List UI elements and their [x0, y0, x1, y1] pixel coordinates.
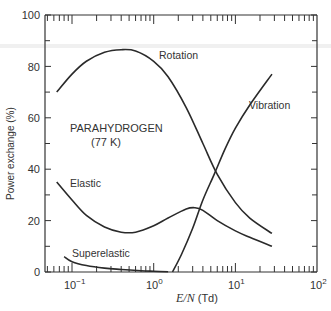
rotation-curve: [57, 49, 272, 233]
y-tick-label-40: 40: [28, 163, 40, 175]
gas-annotation: PARAHYDROGEN: [70, 122, 163, 134]
x-tick-label-100: 102: [310, 277, 327, 291]
temperature-annotation: (77 K): [91, 136, 121, 148]
x-axis-label: E/N (Td): [175, 291, 218, 305]
curves: [57, 49, 272, 272]
x-tick-label-1: 100: [146, 277, 163, 291]
y-tick-labels: 0 20 40 60 80 100: [22, 9, 40, 278]
y-tick-label-20: 20: [28, 215, 40, 227]
elastic-curve: [57, 182, 272, 246]
x-tick-label-10: 101: [228, 277, 245, 291]
y-tick-label-0: 0: [34, 266, 40, 278]
chart: 0 20 40 60 80 100 10−1 100 101 102 Power…: [0, 0, 331, 311]
y-axis-label: Power exchange (%): [5, 107, 16, 200]
elastic-label: Elastic: [70, 177, 101, 189]
y-tick-label-100: 100: [22, 9, 40, 21]
y-tick-label-80: 80: [28, 61, 40, 73]
superelastic-label: Superelastic: [72, 247, 130, 259]
x-tick-labels: 10−1 100 101 102: [64, 277, 327, 291]
y-tick-label-60: 60: [28, 112, 40, 124]
x-tick-label-0.1: 10−1: [64, 277, 86, 291]
vibration-label: Vibration: [249, 99, 290, 111]
rotation-label: Rotation: [159, 49, 198, 61]
